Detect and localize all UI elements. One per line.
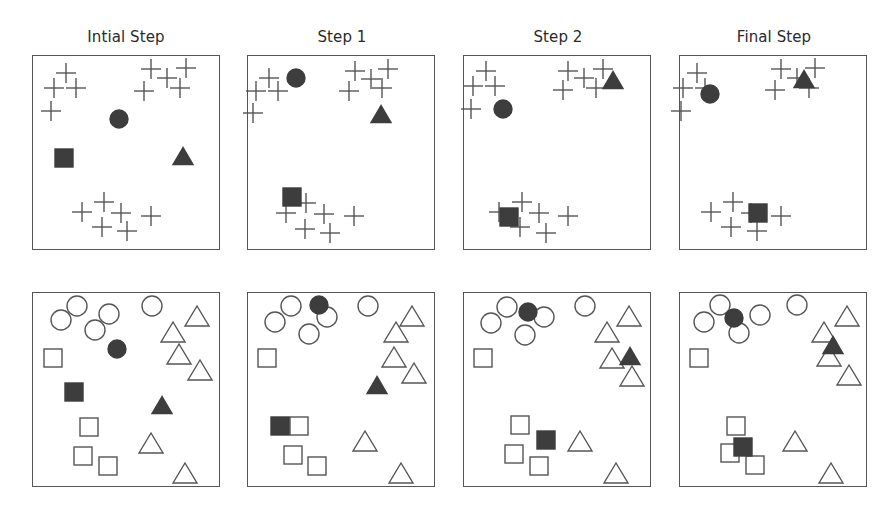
circle-point-marker — [99, 304, 119, 324]
centroid-square-marker — [749, 204, 767, 222]
cross-marker — [72, 202, 92, 222]
title-final-step: Final Step — [679, 28, 869, 46]
triangle-point-marker — [617, 306, 641, 326]
triangle-point-marker — [400, 306, 424, 326]
cross-marker — [111, 203, 131, 223]
square-point-marker — [746, 456, 764, 474]
cross-marker — [268, 81, 288, 101]
cross-marker — [771, 206, 791, 226]
triangle-point-marker — [389, 463, 413, 483]
centroid-square-marker — [271, 417, 289, 435]
circle-point-marker — [481, 313, 501, 333]
plot-area — [33, 293, 219, 486]
centroid-triangle-marker — [152, 397, 172, 414]
cross-marker — [141, 59, 161, 79]
cross-marker — [805, 58, 825, 78]
circle-point-marker — [281, 296, 301, 316]
cross-marker — [529, 203, 549, 223]
cross-marker — [461, 99, 481, 119]
triangle-point-marker — [819, 463, 843, 483]
cross-marker — [771, 59, 791, 79]
square-point-marker — [284, 446, 302, 464]
centroid-square-marker — [65, 383, 83, 401]
centroid-circle-marker — [725, 309, 743, 327]
circle-point-marker — [358, 296, 378, 316]
square-point-marker — [74, 447, 92, 465]
cross-marker — [765, 80, 785, 100]
triangle-point-marker — [382, 347, 406, 367]
panel-bottom-initial — [32, 292, 220, 487]
triangle-point-marker — [604, 463, 628, 483]
square-point-marker — [511, 416, 529, 434]
square-point-marker — [690, 349, 708, 367]
centroid-triangle-marker — [603, 72, 623, 89]
circle-point-marker — [142, 296, 162, 316]
triangle-point-marker — [620, 366, 644, 386]
circle-point-marker — [694, 312, 714, 332]
cross-marker — [56, 63, 76, 83]
title-step-1: Step 1 — [247, 28, 437, 46]
cross-marker — [378, 59, 398, 79]
panel-top-step-1 — [247, 55, 435, 250]
cross-marker — [701, 202, 721, 222]
title-step-2: Step 2 — [463, 28, 653, 46]
circle-point-marker — [750, 305, 770, 325]
centroid-square-marker — [537, 431, 555, 449]
triangle-point-marker — [835, 306, 859, 326]
cross-marker — [558, 206, 578, 226]
cross-marker — [485, 76, 505, 96]
cross-marker — [66, 78, 86, 98]
centroid-circle-marker — [701, 85, 719, 103]
circle-point-marker — [67, 296, 87, 316]
plot-area — [464, 56, 650, 249]
cross-marker — [747, 221, 767, 241]
square-point-marker — [44, 349, 62, 367]
circle-point-marker — [265, 312, 285, 332]
triangle-point-marker — [595, 322, 619, 342]
square-point-marker — [290, 417, 308, 435]
centroid-circle-marker — [310, 296, 328, 314]
plot-area — [680, 293, 866, 486]
triangle-point-marker — [353, 431, 377, 451]
cross-marker — [339, 81, 359, 101]
cross-marker — [295, 219, 315, 239]
cross-marker — [176, 58, 196, 78]
square-point-marker — [727, 417, 745, 435]
panel-bottom-final — [679, 292, 867, 487]
cross-marker — [320, 223, 340, 243]
panel-bottom-step-2 — [463, 292, 651, 487]
centroid-square-marker — [283, 188, 301, 206]
square-point-marker — [530, 457, 548, 475]
centroid-square-marker — [55, 149, 73, 167]
cross-marker — [345, 61, 365, 81]
cross-marker — [463, 76, 483, 96]
centroid-square-marker — [734, 438, 752, 456]
centroid-triangle-marker — [367, 377, 387, 394]
cross-marker — [673, 78, 693, 98]
centroid-triangle-marker — [371, 106, 391, 123]
centroid-circle-marker — [110, 110, 128, 128]
centroid-triangle-marker — [173, 148, 193, 165]
plot-area — [248, 293, 434, 486]
cross-marker — [314, 204, 334, 224]
panel-top-step-2 — [463, 55, 651, 250]
triangle-point-marker — [173, 463, 197, 483]
plot-area — [680, 56, 866, 249]
square-point-marker — [308, 457, 326, 475]
circle-point-marker — [51, 310, 71, 330]
cross-marker — [243, 103, 263, 123]
plot-area — [464, 293, 650, 486]
square-point-marker — [80, 418, 98, 436]
circle-point-marker — [787, 295, 807, 315]
triangle-point-marker — [161, 322, 185, 342]
cross-marker — [117, 221, 137, 241]
cross-marker — [372, 78, 392, 98]
cross-marker — [476, 61, 496, 81]
panel-bottom-step-1 — [247, 292, 435, 487]
title-initial-step: Intial Step — [31, 28, 221, 46]
cross-marker — [723, 192, 743, 212]
triangle-point-marker — [568, 431, 592, 451]
cross-marker — [141, 206, 161, 226]
triangle-point-marker — [139, 433, 163, 453]
square-point-marker — [505, 445, 523, 463]
